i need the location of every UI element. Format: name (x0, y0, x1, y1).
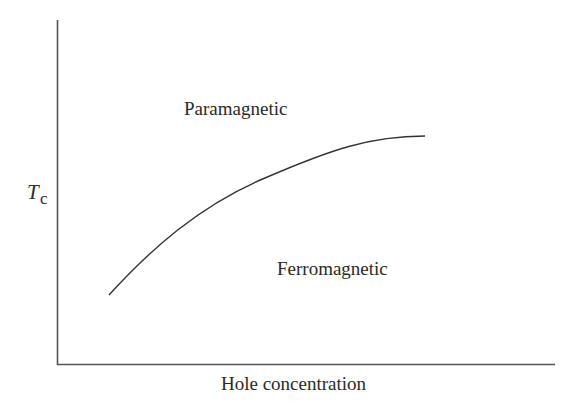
x-axis-label: Hole concentration (221, 373, 367, 394)
ferromagnetic-label: Ferromagnetic (277, 258, 388, 279)
y-axis-label: T (27, 180, 40, 204)
paramagnetic-label: Paramagnetic (184, 98, 287, 119)
phase-diagram: T c Paramagnetic Ferromagnetic Hole conc… (0, 0, 577, 406)
y-axis-label-subscript: c (40, 189, 48, 208)
